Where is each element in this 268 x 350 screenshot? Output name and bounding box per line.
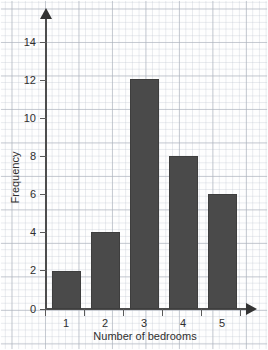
y-axis-tick-label: 12 bbox=[10, 75, 36, 86]
x-axis-tick bbox=[123, 309, 124, 316]
y-axis-tick bbox=[40, 232, 47, 233]
bar-category-1[interactable] bbox=[52, 271, 81, 309]
x-axis-tick-label: 5 bbox=[207, 318, 237, 329]
x-axis-tick bbox=[240, 309, 241, 316]
y-axis-tick-label: 2 bbox=[10, 265, 36, 276]
y-axis-tick-label: 0 bbox=[10, 304, 36, 315]
x-axis-tick-label: 4 bbox=[168, 318, 198, 329]
arrow-right-icon bbox=[246, 303, 257, 315]
y-axis-tick bbox=[40, 194, 47, 195]
bar-chart-figure: 0 2 4 6 8 10 12 14 1 2 3 4 5 Number of b… bbox=[0, 0, 268, 350]
y-axis-tick-label: 14 bbox=[10, 37, 36, 48]
x-axis-tick-label: 2 bbox=[90, 318, 120, 329]
y-axis-title: Frequency bbox=[10, 133, 21, 223]
y-axis-tick bbox=[40, 156, 47, 157]
bar-category-2[interactable] bbox=[91, 232, 120, 309]
x-axis-tick bbox=[201, 309, 202, 316]
y-axis-tick bbox=[40, 42, 47, 43]
y-axis-tick bbox=[40, 118, 47, 119]
y-axis-tick bbox=[40, 270, 47, 271]
y-axis-line bbox=[45, 18, 47, 310]
bar-category-5[interactable] bbox=[208, 194, 237, 309]
y-axis-tick bbox=[40, 80, 47, 81]
plot-area: 0 2 4 6 8 10 12 14 1 2 3 4 5 Number of b… bbox=[0, 0, 268, 350]
bar-category-4[interactable] bbox=[169, 156, 198, 309]
y-axis-tick-label: 4 bbox=[10, 227, 36, 238]
arrow-up-icon bbox=[40, 8, 52, 19]
x-axis-tick bbox=[162, 309, 163, 316]
x-axis-tick-label: 1 bbox=[51, 318, 81, 329]
x-axis-title: Number of bedrooms bbox=[45, 331, 245, 342]
x-axis-tick bbox=[84, 309, 85, 316]
x-axis-tick bbox=[45, 309, 46, 316]
x-axis-tick-label: 3 bbox=[129, 318, 159, 329]
bar-category-3[interactable] bbox=[130, 79, 159, 309]
y-axis-tick-label: 10 bbox=[10, 113, 36, 124]
